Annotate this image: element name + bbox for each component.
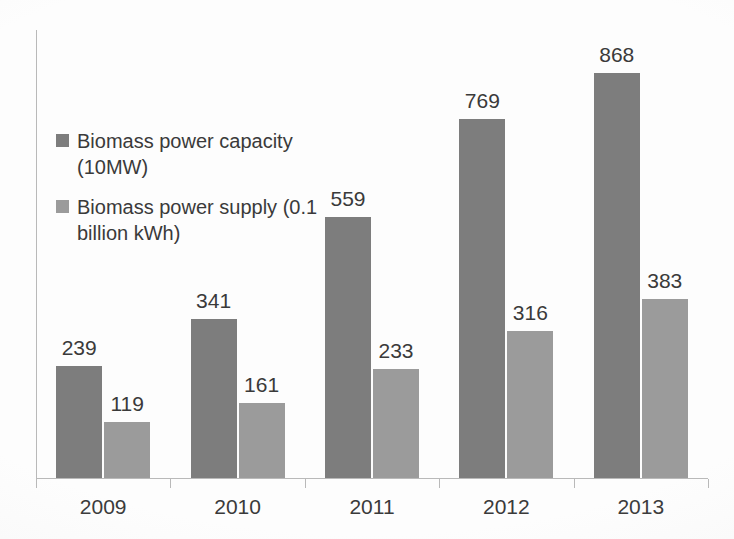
legend-item-supply[interactable]: Biomass power supply (0.1 billion kWh) xyxy=(56,194,356,246)
bar-group-2012 xyxy=(459,30,553,478)
category-label-2011: 2011 xyxy=(305,495,439,519)
legend-item-capacity[interactable]: Biomass power capacity (10MW) xyxy=(56,128,356,180)
bar-2009-series-2[interactable] xyxy=(104,422,150,478)
x-axis-end-tick-1 xyxy=(36,479,37,488)
bar-group-2013 xyxy=(594,30,688,478)
category-label-2012: 2012 xyxy=(439,495,573,519)
category-label-2010: 2010 xyxy=(170,495,304,519)
bar-chart: 239119341161559233769316868383 200920102… xyxy=(0,0,734,539)
x-axis-line xyxy=(36,478,708,479)
legend-label-supply: Biomass power supply (0.1 billion kWh) xyxy=(77,194,356,246)
bar-2013-series-2[interactable] xyxy=(642,299,688,478)
x-axis-end-tick-2 xyxy=(708,479,709,488)
bar-2010-series-2[interactable] xyxy=(239,403,285,478)
x-axis-tick-1 xyxy=(170,479,171,488)
bar-2012-series-1[interactable] xyxy=(459,119,505,478)
legend-label-capacity: Biomass power capacity (10MW) xyxy=(77,128,356,180)
bar-2012-series-2[interactable] xyxy=(507,331,553,478)
bar-2010-series-1[interactable] xyxy=(191,319,237,478)
x-axis-tick-4 xyxy=(574,479,575,488)
legend-swatch-capacity-icon xyxy=(56,134,69,147)
category-label-2013: 2013 xyxy=(574,495,708,519)
category-label-2009: 2009 xyxy=(36,495,170,519)
bar-2013-series-1[interactable] xyxy=(594,73,640,478)
x-axis-tick-3 xyxy=(439,479,440,488)
chart-legend: Biomass power capacity (10MW) Biomass po… xyxy=(56,128,356,260)
bar-2009-series-1[interactable] xyxy=(56,366,102,478)
x-axis-tick-2 xyxy=(305,479,306,488)
bar-2011-series-2[interactable] xyxy=(373,369,419,478)
legend-swatch-supply-icon xyxy=(56,200,69,213)
